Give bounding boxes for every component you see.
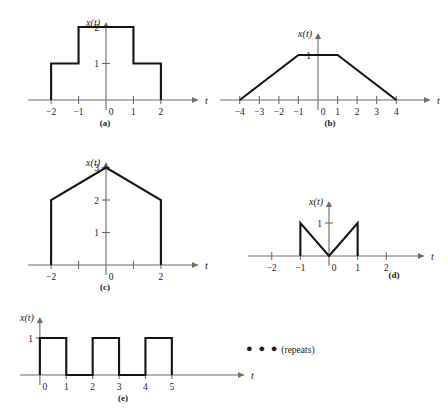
svg-text:1: 1: [355, 263, 360, 273]
svg-text:3: 3: [117, 382, 122, 392]
plot-e: tx(t)0123451: [10, 306, 240, 392]
panel-a-caption: (a): [85, 118, 125, 128]
svg-text:0: 0: [332, 263, 337, 273]
svg-text:t: t: [431, 251, 434, 262]
svg-text:3: 3: [374, 107, 379, 117]
svg-text:2: 2: [94, 196, 99, 206]
svg-text:1: 1: [335, 107, 340, 117]
svg-text:t: t: [437, 95, 440, 106]
panel-c-caption: (c): [85, 282, 125, 292]
svg-text:1: 1: [94, 59, 99, 69]
svg-text:2: 2: [159, 272, 164, 282]
panel-a: tx(t)−2−101212: [14, 8, 210, 120]
svg-text:2: 2: [159, 107, 164, 117]
svg-text:−1: −1: [293, 107, 303, 117]
panel-c: tx(t)−202123: [14, 148, 210, 276]
svg-text:x(t): x(t): [19, 312, 35, 324]
svg-text:−1: −1: [73, 107, 83, 117]
svg-text:x(t): x(t): [297, 28, 313, 40]
svg-text:−4: −4: [235, 107, 245, 117]
svg-text:−2: −2: [274, 107, 284, 117]
plot-d: tx(t)−2−10121: [240, 184, 436, 276]
svg-text:t: t: [205, 260, 208, 271]
svg-text:1: 1: [317, 219, 322, 229]
svg-text:5: 5: [169, 382, 174, 392]
svg-text:1: 1: [28, 334, 33, 344]
svg-text:t: t: [251, 370, 254, 381]
svg-text:2: 2: [355, 107, 360, 117]
panel-b: tx(t)−4−3−2−1012341: [222, 8, 438, 120]
plot-c: tx(t)−202123: [14, 148, 210, 276]
repeats-label: (repeats): [281, 345, 314, 355]
plot-b: tx(t)−4−3−2−1012341: [222, 8, 438, 120]
svg-text:2: 2: [90, 382, 95, 392]
panel-d: tx(t)−2−10121: [240, 184, 436, 276]
svg-text:−1: −1: [295, 263, 305, 273]
svg-text:t: t: [205, 95, 208, 106]
panel-e: tx(t)0123451: [10, 306, 240, 392]
plot-a: tx(t)−2−101212: [14, 8, 210, 120]
panel-b-caption: (b): [310, 118, 350, 128]
svg-text:−2: −2: [46, 107, 56, 117]
svg-text:−3: −3: [254, 107, 264, 117]
svg-text:4: 4: [394, 107, 399, 117]
svg-text:4: 4: [143, 382, 148, 392]
panel-d-caption: (d): [374, 270, 414, 280]
svg-text:−2: −2: [267, 263, 277, 273]
svg-text:1: 1: [94, 228, 99, 238]
svg-text:0: 0: [43, 382, 48, 392]
panel-e-caption: (e): [103, 393, 143, 403]
svg-text:1: 1: [64, 382, 69, 392]
svg-text:x(t): x(t): [308, 196, 324, 208]
figure-sheet: tx(t)−2−101212 (a) tx(t)−4−3−2−1012341 (…: [0, 0, 448, 413]
svg-text:0: 0: [109, 272, 114, 282]
svg-text:0: 0: [321, 107, 326, 117]
repeat-dots-icon: ● ● ●: [246, 342, 279, 354]
svg-text:−2: −2: [46, 272, 56, 282]
svg-text:0: 0: [109, 107, 114, 117]
svg-text:1: 1: [131, 107, 136, 117]
repeats-annotation: ● ● ● (repeats): [246, 342, 315, 355]
